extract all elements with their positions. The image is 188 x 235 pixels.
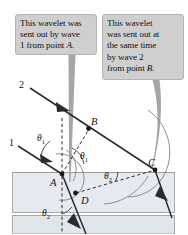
callout-1-emphasis: A. <box>66 40 74 50</box>
callout-wavelet-B: This wavelet was sent out at the same ti… <box>102 14 184 80</box>
theta-1-incident-subscript: 1 <box>42 138 45 145</box>
callout-2-line-1: This wavelet <box>107 18 179 29</box>
point-B-label: B <box>91 117 97 128</box>
callout-2-line-3: the same time <box>107 40 179 51</box>
point-A-dot <box>60 172 65 177</box>
callout-1-line-3: 1 from point A. <box>20 40 92 51</box>
point-C-label: C <box>148 158 155 169</box>
point-D-label: D <box>81 196 89 207</box>
callout-1-line-3-text: 1 from point <box>20 40 66 50</box>
lowest-medium-region <box>13 216 175 235</box>
point-A-label: A <box>50 178 56 189</box>
figure-canvas: This wavelet was sent out by wave 1 from… <box>0 0 188 234</box>
wave-2-label: 2 <box>19 80 24 90</box>
callout-2-emphasis: B. <box>147 63 155 73</box>
theta-2-refracted-label: θ2 <box>42 209 50 220</box>
callout-1-line-2: sent out by wave <box>20 29 92 40</box>
callout-2-line-4: by wave 2 <box>107 52 179 63</box>
callout-1-line-1: This wavelet was <box>20 18 92 29</box>
point-D-dot <box>73 191 78 196</box>
theta-1-construction-subscript: 1 <box>85 156 88 163</box>
callout-wavelet-A: This wavelet was sent out by wave 1 from… <box>15 14 97 55</box>
theta-1-construction-label: θ1 <box>80 152 88 163</box>
lower-medium-region <box>13 173 175 213</box>
callout-2-line-2: was sent out at <box>107 29 179 40</box>
theta-1-incident-label: θ1 <box>37 134 45 145</box>
wave-1-label: 1 <box>9 138 14 148</box>
theta-2-refracted-subscript: 2 <box>47 213 50 220</box>
callout-2-line-5-text: from point <box>107 63 147 73</box>
theta-2-construction-label: θ2 <box>104 172 112 183</box>
theta-2-construction-subscript: 2 <box>109 176 112 183</box>
callout-2-line-5: from point B. <box>107 63 179 74</box>
